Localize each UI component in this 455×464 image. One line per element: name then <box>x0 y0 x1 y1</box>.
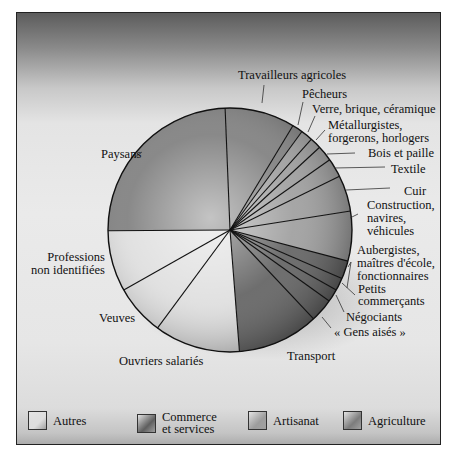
label-petits-commercants-2: commerçants <box>358 295 425 308</box>
label-transport: Transport <box>287 350 335 363</box>
legend-item-artisanat: Artisanat <box>248 411 319 430</box>
label-verre: Verre, brique, céramique <box>312 103 436 116</box>
label-cuir: Cuir <box>404 185 426 198</box>
legend-swatch-artisanat <box>248 411 267 430</box>
label-metallurgistes-2: forgerons, horlogers <box>328 132 429 145</box>
label-construction-3: véhicules <box>367 225 414 238</box>
label-veuves: Veuves <box>99 312 135 325</box>
legend-label-commerce-line2: et services <box>162 423 217 435</box>
label-pecheurs: Pêcheurs <box>302 88 347 101</box>
legend-label-agriculture: Agriculture <box>368 415 426 427</box>
legend-item-commerce: Commerce et services <box>137 411 217 435</box>
label-bois: Bois et paille <box>368 147 434 160</box>
legend-swatch-autres <box>28 411 47 430</box>
legend-label-commerce: Commerce et services <box>162 411 217 435</box>
label-textile: Textile <box>391 163 426 176</box>
label-gens-aises: « Gens aisés » <box>334 326 406 339</box>
legend-swatch-commerce <box>137 414 156 433</box>
label-paysans: Paysans <box>101 148 141 161</box>
legend-item-agriculture: Agriculture <box>343 411 426 430</box>
legend-swatch-agriculture <box>343 411 362 430</box>
label-travailleurs-agricoles: Travailleurs agricoles <box>238 69 346 82</box>
legend-label-autres: Autres <box>53 415 86 427</box>
label-ouvriers-salaries: Ouvriers salariés <box>119 355 203 368</box>
label-professions-2: non identifiées <box>30 264 105 277</box>
legend-label-artisanat: Artisanat <box>273 415 319 427</box>
label-negociants: Négociants <box>346 311 402 324</box>
slice-border <box>108 230 230 231</box>
legend-item-autres: Autres <box>28 411 86 430</box>
